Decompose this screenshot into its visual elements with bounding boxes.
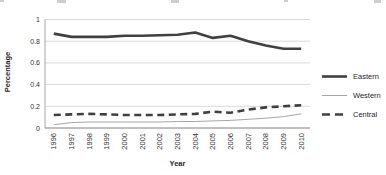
x-tick-label: 2003: [173, 133, 182, 150]
x-tick-label: 1999: [102, 133, 111, 150]
legend-item-eastern: Eastern: [321, 70, 385, 83]
x-tick-label: 2001: [138, 133, 147, 150]
y-tick-label: 0.8: [30, 38, 40, 45]
legend-label-eastern: Eastern: [353, 72, 379, 81]
legend: EasternWesternCentral: [321, 70, 385, 127]
x-tick-label: 2009: [279, 133, 288, 150]
x-tick-label: 2007: [244, 133, 253, 150]
legend-swatch-eastern-line-icon: [321, 73, 348, 80]
legend-item-western: Western: [321, 89, 385, 102]
legend-label-central: Central: [353, 110, 377, 119]
y-tick-label: 0.2: [30, 103, 40, 110]
y-tick-label: 0.4: [30, 81, 40, 88]
y-tick-label: 0: [36, 125, 40, 132]
x-axis-title: Year: [150, 159, 205, 168]
x-tick-label: 1996: [49, 133, 58, 150]
x-tick-label: 2002: [155, 133, 164, 150]
series-line-western: [54, 114, 301, 125]
x-tick-label: 1997: [67, 133, 76, 150]
y-tick-label: 0.6: [30, 59, 40, 66]
x-tick-label: 1998: [85, 133, 94, 150]
x-tick-label: 2010: [297, 133, 306, 150]
x-tick-label: 2004: [191, 133, 200, 150]
legend-swatch-central-line-icon: [321, 111, 348, 118]
line-chart: 00.20.40.60.8119961997199819992000200120…: [0, 0, 386, 175]
y-axis-title: Percentage: [2, 42, 14, 102]
y-tick-label: 1: [36, 16, 40, 23]
legend-item-central: Central: [321, 108, 385, 121]
x-tick-label: 2005: [208, 133, 217, 150]
series-line-eastern: [54, 33, 301, 49]
x-tick-label: 2006: [226, 133, 235, 150]
legend-swatch-western-line-icon: [321, 92, 348, 99]
x-tick-label: 2008: [261, 133, 270, 150]
legend-label-western: Western: [353, 91, 381, 100]
x-tick-label: 2000: [120, 133, 129, 150]
